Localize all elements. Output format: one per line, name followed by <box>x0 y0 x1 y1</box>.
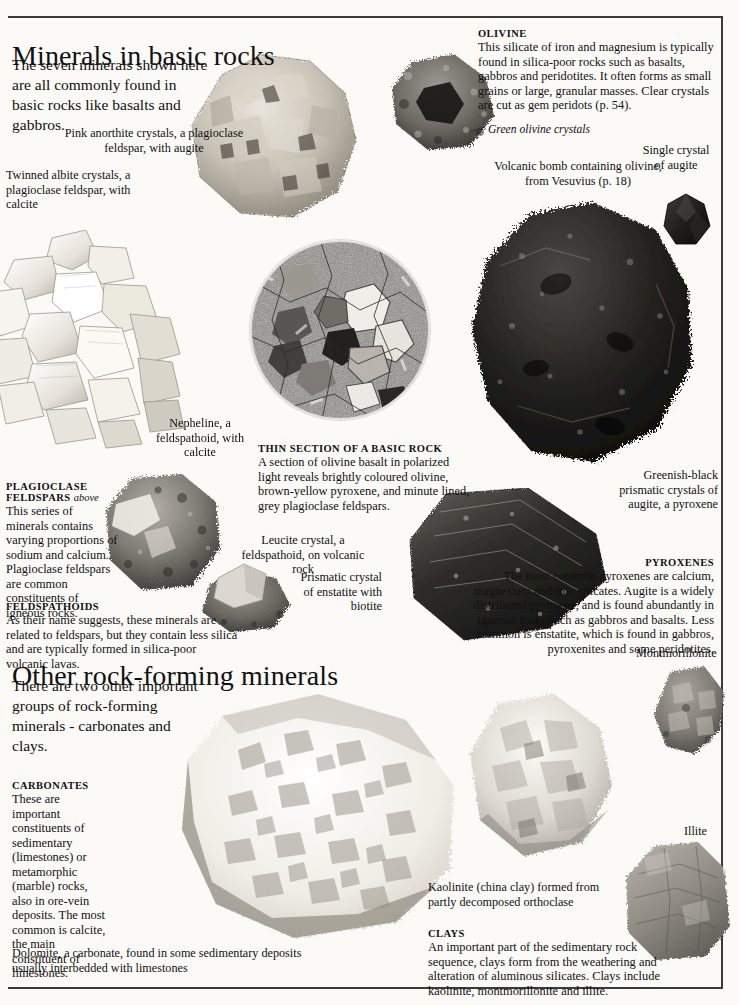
pyroxenes-section: PYROXENES The most common pyroxenes are … <box>460 557 714 656</box>
plagioclase-heading: PLAGIOCLASE <box>6 481 118 492</box>
pyroxenes-body: The most common pyroxenes are calcium, m… <box>460 569 714 656</box>
plagioclase-heading-2-italic: above <box>74 492 99 503</box>
clays-body: An important part of the sedimentary roc… <box>428 940 678 998</box>
plagioclase-heading-2: FELDSPARS above <box>6 492 118 503</box>
thin-section-caption-block: THIN SECTION OF A BASIC ROCK A section o… <box>258 443 470 513</box>
book-page: Minerals in basic rocks The seven minera… <box>0 0 739 1005</box>
intro-other-minerals: There are two other important groups of … <box>12 676 204 757</box>
specimen-kaolinite <box>462 690 622 870</box>
thin-section-photomicrograph <box>250 240 430 420</box>
caption-dolomite: Dolomite, a carbonate, found in some sed… <box>12 946 312 975</box>
thin-section-heading: THIN SECTION OF A BASIC ROCK <box>258 443 470 454</box>
caption-single-augite: Single crystal of augite <box>640 143 712 172</box>
clays-heading: CLAYS <box>428 928 678 939</box>
carbonates-heading: CARBONATES <box>12 780 108 791</box>
caption-kaolinite: Kaolinite (china clay) formed from partl… <box>428 880 628 909</box>
olivine-section: OLIVINE This silicate of iron and magnes… <box>478 28 714 113</box>
specimen-dolomite <box>168 690 468 955</box>
plagioclase-section: PLAGIOCLASE FELDSPARS above This series … <box>6 481 118 620</box>
intro-basic-rocks: The seven minerals shown here are all co… <box>12 55 212 136</box>
caption-illite: Illite <box>684 824 734 839</box>
plagioclase-heading-2-text: FELDSPARS <box>6 492 71 503</box>
olivine-heading: OLIVINE <box>478 28 714 39</box>
specimen-single-augite-crystal <box>660 192 714 250</box>
specimen-montmorillonite <box>650 662 730 762</box>
caption-enstatite: Prismatic crystal of enstatite with biot… <box>300 570 382 614</box>
olivine-body: This silicate of iron and magnesium is t… <box>478 40 714 113</box>
clays-section: CLAYS An important part of the sedimenta… <box>428 928 678 998</box>
feldspathoids-heading: FELDSPATHOIDS <box>6 601 238 612</box>
caption-greenish-black-augite: Greenish-black prismatic crystals of aug… <box>600 468 718 512</box>
thin-section-body: A section of olivine basalt in polarized… <box>258 455 470 513</box>
caption-albite: Twinned albite crystals, a plagioclase f… <box>6 168 156 212</box>
caption-anorthite: Pink anorthite crystals, a plagioclase f… <box>44 126 264 155</box>
pyroxenes-heading: PYROXENES <box>460 557 714 568</box>
caption-montmorillonite: Montmorillonite <box>636 646 736 661</box>
page-rule-top <box>8 16 723 18</box>
caption-green-olivine-crystals: Green olivine crystals <box>488 123 638 137</box>
caption-nepheline: Nepheline, a feldspathoid, with calcite <box>148 416 252 460</box>
